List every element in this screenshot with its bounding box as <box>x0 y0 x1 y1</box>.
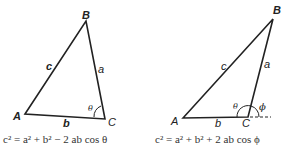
left-angle-theta: θ <box>88 104 93 113</box>
left-triangle-shape <box>25 21 105 119</box>
left-theta-arc <box>94 106 101 117</box>
right-side-c: c <box>221 60 227 72</box>
right-angle-theta: θ <box>233 102 238 111</box>
left-side-c: c <box>46 60 52 72</box>
left-triangle: B A C c a b θ <box>12 9 116 129</box>
right-phi-arc <box>251 106 259 117</box>
right-vertex-a: A <box>170 115 178 127</box>
left-side-a: a <box>98 63 104 75</box>
right-vertex-c: C <box>242 117 250 129</box>
right-angle-phi: ϕ <box>259 101 266 112</box>
right-triangle: B A C c a b θ ϕ <box>170 4 281 129</box>
right-side-b: b <box>215 117 221 129</box>
right-vertex-b: B <box>273 4 281 16</box>
right-side-a: a <box>264 58 270 70</box>
left-vertex-b: B <box>82 9 90 21</box>
law-of-cosines-diagram: B A C c a b θ B A C c a b θ ϕ <box>0 0 284 154</box>
left-side-b: b <box>63 117 70 129</box>
left-formula: c² = a² + b² − 2 ab cos θ <box>3 133 107 145</box>
left-vertex-a: A <box>12 110 21 122</box>
right-formula: c² = a² + b² + 2 ab cos ϕ <box>155 133 260 145</box>
left-vertex-c: C <box>108 116 116 128</box>
